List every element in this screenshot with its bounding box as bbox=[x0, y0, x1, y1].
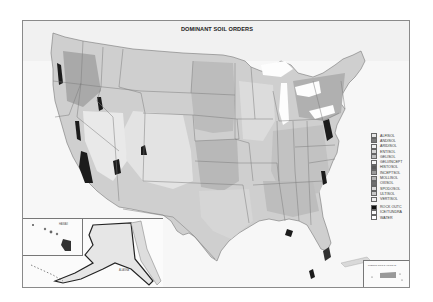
legend-item: VERTISOL bbox=[371, 197, 410, 202]
legend-swatch bbox=[371, 186, 377, 191]
legend-label: ICE/TUNDRA bbox=[380, 210, 402, 214]
puerto-rico-inset: PUERTO RICO & VIRGIN IS. bbox=[363, 260, 410, 288]
legend-swatch bbox=[371, 138, 377, 143]
alaska-label: ALASKA bbox=[119, 269, 129, 272]
legend-swatch bbox=[371, 144, 377, 149]
legend-swatch bbox=[371, 215, 377, 220]
legend-label: WATER bbox=[380, 216, 393, 220]
legend-swatch bbox=[371, 149, 377, 154]
legend-item: WATER bbox=[371, 215, 410, 220]
legend-label: ROCK OUTC bbox=[380, 205, 402, 209]
soil-legend: ALFISOL ANDISOL ARIDISOL ENTISOL GELISOL… bbox=[371, 133, 410, 220]
legend-label: SPODOSOL bbox=[380, 187, 400, 191]
puerto-rico-map bbox=[364, 261, 410, 288]
legend-label: ANDISOL bbox=[380, 139, 396, 143]
hawaii-label: HAWAII bbox=[59, 223, 68, 226]
legend-label: VERTISOL bbox=[380, 197, 398, 201]
map-title: DOMINANT SOIL ORDERS bbox=[23, 26, 410, 32]
hawaii-inset: HAWAII bbox=[23, 218, 83, 256]
legend-swatch bbox=[371, 176, 377, 181]
legend-swatch bbox=[371, 181, 377, 186]
legend-label: ENTISOL bbox=[380, 150, 395, 154]
legend-swatch bbox=[371, 205, 377, 210]
legend-label: HISTOSOL bbox=[380, 165, 398, 169]
soil-map-frame: DOMINANT SOIL ORDERS ALASKA HAWAII PUERT… bbox=[22, 20, 410, 288]
legend-label: ULTISOL bbox=[380, 192, 395, 196]
legend-swatch bbox=[371, 165, 377, 170]
legend-swatch bbox=[371, 191, 377, 196]
legend-label: ALFISOL bbox=[380, 134, 395, 138]
legend-label: OXISOL bbox=[380, 181, 393, 185]
legend-label: MOLLISOL bbox=[380, 176, 398, 180]
legend-swatch bbox=[371, 154, 377, 159]
legend-swatch bbox=[371, 160, 377, 165]
legend-swatch bbox=[371, 210, 377, 215]
legend-label: GELISOL bbox=[380, 155, 395, 159]
legend-swatch bbox=[371, 133, 377, 138]
hawaii-map bbox=[23, 219, 83, 257]
legend-swatch bbox=[371, 197, 377, 202]
legend-label: INCEPTSOL bbox=[380, 171, 400, 175]
legend-swatch bbox=[371, 170, 377, 175]
legend-label: ARIDISOL bbox=[380, 144, 397, 148]
legend-label: GELI/INCEPT bbox=[380, 160, 402, 164]
